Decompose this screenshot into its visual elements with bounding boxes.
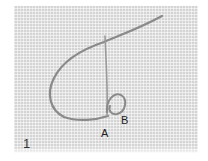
point-label-a: A	[101, 128, 108, 139]
step-number: 1	[23, 136, 30, 151]
point-label-b: B	[121, 115, 128, 126]
